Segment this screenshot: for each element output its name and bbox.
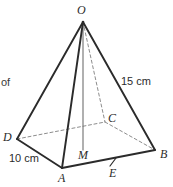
vertex-label-B: B (160, 148, 167, 160)
solid-edges-group (17, 22, 155, 168)
measurement-label-slant-height: 15 cm (121, 76, 151, 87)
vertex-label-M: M (78, 149, 88, 161)
stray-text-of: of (1, 77, 10, 88)
vertex-label-A: A (58, 172, 65, 184)
vertex-dot-O (82, 21, 85, 24)
measurement-label-base-edge: 10 cm (9, 153, 39, 164)
edge-O-D (17, 22, 83, 139)
figure-canvas: O A B C D M E 15 cm 10 cm of (0, 0, 173, 187)
vertex-label-E: E (109, 167, 116, 179)
vertex-dots-group (82, 21, 85, 24)
vertex-label-D: D (3, 131, 12, 143)
edge-O-C (83, 22, 105, 122)
edge-D-C (17, 122, 105, 139)
vertex-label-O: O (77, 4, 86, 16)
vertex-label-C: C (108, 112, 116, 124)
edge-O-A (62, 22, 83, 168)
